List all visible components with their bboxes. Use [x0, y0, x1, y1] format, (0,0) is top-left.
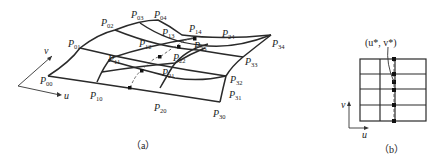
grid-point	[392, 72, 396, 76]
label-P34: P34	[271, 38, 285, 50]
label-P31: P31	[228, 89, 242, 101]
bspline-surface-figure: v u P00 P10 P20 P30 P01 P11 P21 P31 P02 …	[0, 0, 439, 163]
label-P23: P23	[193, 40, 207, 52]
label-P22: P22	[172, 52, 186, 64]
caption-a: （a）	[131, 140, 155, 151]
panel-b-grid: (u*, v*) v u	[341, 37, 426, 140]
label-P20: P20	[153, 102, 167, 114]
u-axis-label-b: u	[362, 129, 367, 140]
label-P33: P33	[244, 56, 258, 68]
grid-point	[392, 57, 396, 61]
curve-point	[158, 55, 162, 59]
grid-point	[392, 88, 396, 92]
label-P14: P14	[188, 23, 202, 35]
leader-line	[388, 47, 394, 82]
label-P12: P12	[138, 38, 152, 50]
boundary-curve-u0	[48, 30, 115, 76]
v-axis-label: v	[44, 45, 49, 56]
label-P11: P11	[107, 53, 120, 65]
label-P03: P03	[130, 9, 144, 21]
grid-point	[392, 119, 396, 123]
uv-axes-a: v u	[18, 45, 69, 101]
point-label-uv: (u*, v*)	[365, 37, 397, 49]
label-P21: P21	[161, 67, 175, 79]
grid-point	[392, 103, 396, 107]
u-axis-label: u	[64, 90, 69, 101]
label-P04: P04	[153, 9, 167, 21]
label-P30: P30	[212, 108, 226, 120]
caption-b: （b）	[379, 144, 404, 155]
label-P01: P01	[67, 38, 81, 50]
label-P10: P10	[89, 90, 103, 102]
label-P24: P24	[221, 28, 235, 40]
curve-point	[177, 45, 181, 49]
curve-point	[140, 69, 144, 73]
curve-point	[128, 86, 132, 90]
isocurve-v3	[140, 23, 271, 46]
label-P02: P02	[100, 17, 114, 29]
label-P32: P32	[229, 74, 243, 86]
v-axis-label-b: v	[341, 99, 346, 110]
